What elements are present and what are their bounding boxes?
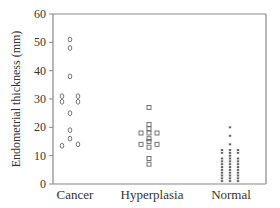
cancer-point bbox=[68, 111, 72, 116]
normal-point bbox=[229, 172, 231, 174]
normal-point bbox=[221, 172, 223, 174]
cancer-point bbox=[68, 136, 72, 141]
normal-point bbox=[221, 149, 223, 151]
normal-point bbox=[221, 158, 223, 160]
y-axis-ticks: 0102030405060 bbox=[34, 7, 53, 191]
normal-point bbox=[229, 155, 231, 157]
normal-point bbox=[237, 169, 239, 171]
hyperplasia-point bbox=[147, 137, 151, 141]
normal-point bbox=[229, 152, 231, 154]
cancer-point bbox=[68, 46, 72, 51]
hyperplasia-point bbox=[147, 162, 151, 166]
normal-point bbox=[229, 169, 231, 171]
normal-point bbox=[237, 177, 239, 179]
cancer-point bbox=[76, 142, 80, 147]
y-tick-label: 30 bbox=[34, 92, 46, 106]
normal-point bbox=[229, 160, 231, 162]
normal-point bbox=[229, 149, 231, 151]
normal-point bbox=[229, 180, 231, 182]
y-tick-label: 40 bbox=[34, 64, 46, 78]
normal-point bbox=[221, 180, 223, 182]
y-tick-label: 50 bbox=[34, 35, 46, 49]
cancer-point bbox=[60, 143, 64, 148]
normal-point bbox=[221, 152, 223, 154]
y-tick-label: 20 bbox=[34, 120, 46, 134]
normal-point bbox=[229, 135, 231, 137]
normal-point bbox=[221, 160, 223, 162]
hyperplasia-point bbox=[147, 127, 151, 131]
normal-point bbox=[229, 177, 231, 179]
hyperplasia-point bbox=[147, 140, 151, 144]
hyperplasia-point bbox=[139, 142, 143, 146]
normal-point bbox=[237, 180, 239, 182]
hyperplasia-point bbox=[139, 131, 143, 135]
normal-point bbox=[237, 152, 239, 154]
normal-point bbox=[229, 175, 231, 177]
x-category-label: Normal bbox=[211, 187, 251, 202]
cancer-point bbox=[60, 94, 64, 99]
plot-frame bbox=[53, 14, 266, 184]
hyperplasia-point bbox=[155, 131, 159, 135]
y-tick-label: 60 bbox=[34, 7, 46, 21]
normal-point bbox=[237, 172, 239, 174]
normal-point bbox=[229, 143, 231, 145]
hyperplasia-point bbox=[147, 145, 151, 149]
scatter-chart: 0102030405060 CancerHyperplasiaNormal En… bbox=[0, 0, 280, 208]
normal-point bbox=[237, 163, 239, 165]
cancer-point bbox=[68, 74, 72, 79]
hyperplasia-point bbox=[147, 131, 151, 135]
normal-point bbox=[229, 166, 231, 168]
normal-point bbox=[221, 166, 223, 168]
hyperplasia-point bbox=[147, 157, 151, 161]
cancer-point bbox=[60, 99, 64, 104]
y-tick-label: 10 bbox=[34, 149, 46, 163]
normal-point bbox=[237, 149, 239, 151]
normal-point bbox=[237, 160, 239, 162]
normal-point bbox=[221, 169, 223, 171]
cancer-point bbox=[68, 128, 72, 133]
normal-point bbox=[229, 126, 231, 128]
normal-point bbox=[221, 175, 223, 177]
data-points bbox=[60, 37, 239, 182]
x-axis-categories: CancerHyperplasiaNormal bbox=[57, 187, 252, 202]
normal-point bbox=[237, 166, 239, 168]
hyperplasia-point bbox=[155, 142, 159, 146]
hyperplasia-point bbox=[147, 106, 151, 110]
cancer-point bbox=[76, 94, 80, 99]
y-tick-label: 0 bbox=[40, 177, 46, 191]
normal-point bbox=[237, 175, 239, 177]
cancer-point bbox=[68, 37, 72, 42]
y-axis-title: Endometrial thickness (mm) bbox=[9, 31, 23, 168]
normal-point bbox=[221, 163, 223, 165]
normal-point bbox=[229, 158, 231, 160]
cancer-point bbox=[76, 99, 80, 104]
normal-point bbox=[229, 163, 231, 165]
normal-point bbox=[237, 158, 239, 160]
x-category-label: Hyperplasia bbox=[121, 187, 184, 202]
hyperplasia-point bbox=[147, 123, 151, 127]
normal-point bbox=[221, 177, 223, 179]
x-category-label: Cancer bbox=[57, 187, 94, 202]
